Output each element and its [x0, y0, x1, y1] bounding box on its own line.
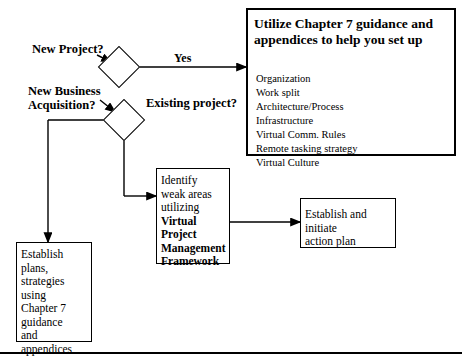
label-new-business-acquisition: New Business Acquisition?	[28, 84, 101, 113]
guidance-title: Utilize Chapter 7 guidance and appendice…	[254, 16, 452, 48]
decision-new-project	[98, 46, 140, 88]
label-new-project: New Project?	[32, 42, 104, 56]
identify-framework-text: Virtual Project Management Framework	[161, 215, 226, 268]
identify-lead-text: Identify weak areas utilizing	[161, 174, 212, 213]
decision-existing-project	[103, 99, 145, 141]
guidance-item-list: Organization Work split Architecture/Pro…	[256, 72, 454, 170]
process-identify-weak-areas-label: Identify weak areas utilizing Virtual Pr…	[161, 174, 227, 269]
label-existing-project: Existing project?	[146, 96, 237, 110]
label-yes: Yes	[174, 52, 191, 65]
process-establish-plans-label: Establish plans, strategies using Chapte…	[21, 248, 91, 357]
process-establish-action-plan-label: Establish and initiate action plan	[305, 208, 393, 249]
bottom-divider	[0, 352, 462, 354]
flowchart-diagram: Utilize Chapter 7 guidance and appendice…	[0, 0, 462, 363]
